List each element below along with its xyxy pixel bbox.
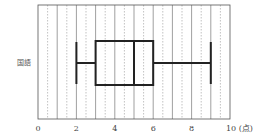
x-tick-label: 0 [35,124,40,133]
x-tick-label: 4 [112,124,117,133]
x-tick-label: 2 [74,124,79,133]
x-axis-tick-labels: 0246810 (点) [35,124,253,133]
x-tick-label: 6 [151,124,156,133]
x-tick-label: 8 [189,124,194,133]
x-tick-label: 10 (点) [226,124,253,133]
category-label: 国語 [17,58,31,67]
box-plot-chart: 0246810 (点) 国語 [0,0,257,138]
